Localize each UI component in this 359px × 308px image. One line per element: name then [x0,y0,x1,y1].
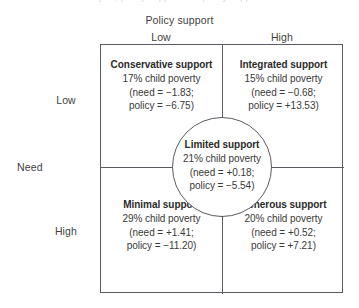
quadrant-poverty-rate: 21% child poverty [173,152,271,166]
clipped-top-text: in the the cluster analysis, policy supp… [6,0,356,2]
quadrant-conservative-support: Conservative support 17% child poverty (… [101,58,222,113]
center-circle-limited-support: Limited support 21% child poverty (need … [172,117,272,217]
quadrant-need-value: (need = +0.52; [226,226,341,240]
quadrant-need-value: (need = −0.68; [226,86,341,100]
quadrant-integrated-support: Integrated support 15% child poverty (ne… [223,58,344,113]
quadrant-policy-value: policy = −11.20) [104,239,219,253]
quadrant-title: Conservative support [104,58,219,72]
quadrant-policy-value: policy = +7.21) [226,239,341,253]
quadrant-poverty-rate: 20% child poverty [226,212,341,226]
row-label-high: High [42,225,90,237]
quadrant-poverty-rate: 17% child poverty [104,72,219,86]
column-label-high: High [252,31,312,43]
quadrant-policy-value: policy = −6.75) [104,99,219,113]
quadrant-need-value: (need = −1.83; [104,86,219,100]
center-circle-content: Limited support 21% child poverty (need … [173,138,271,193]
quadrant-title: Limited support [173,138,271,152]
quadrant-poverty-rate: 15% child poverty [226,72,341,86]
row-label-low: Low [42,94,90,106]
quadrant-policy-value: policy = +13.53) [226,99,341,113]
y-axis-title: Need [17,161,43,173]
quadrant-poverty-rate: 29% child poverty [104,212,219,226]
quadrant-policy-value: policy = −5.54) [173,179,271,193]
x-axis-title: Policy support [0,14,359,26]
quadrant-need-value: (need = +0.18; [173,166,271,180]
column-label-low: Low [131,31,191,43]
quadrant-title: Integrated support [226,58,341,72]
quadrant-need-value: (need = +1.41; [104,226,219,240]
